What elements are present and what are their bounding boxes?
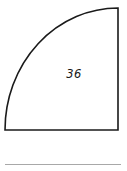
quarter-circle-diagram: 36 xyxy=(0,0,127,171)
figure-panel: 36 xyxy=(0,0,127,171)
quarter-circle-outline xyxy=(5,8,118,130)
area-label: 36 xyxy=(66,67,81,81)
footer-divider-rule xyxy=(5,164,121,165)
